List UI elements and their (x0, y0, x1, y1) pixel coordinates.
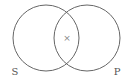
intersection-mark: × (63, 33, 71, 43)
set-s-label: S (12, 66, 19, 77)
set-p-label: P (114, 66, 121, 77)
venn-diagram: × S P (0, 0, 129, 84)
